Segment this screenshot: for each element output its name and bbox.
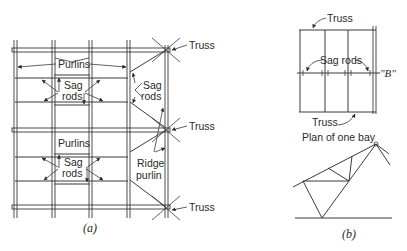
label-purlins-top: Purlins [58,58,90,70]
truss-elevation [293,142,392,218]
label-b-truss-bottom: Truss [312,116,338,128]
label-truss-top: Truss [189,39,215,51]
label-sag-rods-a2: rods [62,90,82,102]
label-purlins-bottom: Purlins [58,137,90,149]
label-ridge-purlin-1: Ridge [137,157,165,169]
label-sag-rods-c2: rods [62,167,82,179]
label-truss-bottom: Truss [189,201,215,213]
label-truss-middle: Truss [189,120,215,132]
label-b-truss-top: Truss [327,12,353,24]
caption-b: (b) [342,227,356,241]
figure-b-plan-of-one-bay: Truss Sag rods "B" Truss Plan of one bay… [293,12,396,241]
label-ridge-purlin-2: purlin [136,169,162,181]
truss-lines [12,48,170,209]
label-arrows [18,45,187,210]
label-plan-of-one-bay: Plan of one bay [302,131,376,143]
label-b-point-b: "B" [380,67,396,79]
ridge-diagonals [130,50,166,207]
label-sag-rods-b2: rods [141,90,161,102]
figure-a-framing-plan: Truss Truss Truss Purlins Purlins Sag ro… [12,38,215,235]
caption-a: (a) [83,221,97,235]
roof-framing-diagram: Truss Truss Truss Purlins Purlins Sag ro… [0,0,407,251]
label-b-sag-rods: Sag rods [320,54,362,66]
